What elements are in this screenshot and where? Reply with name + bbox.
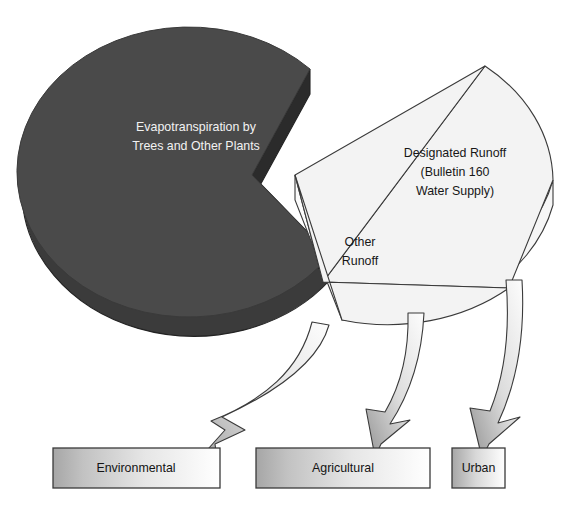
diagram-canvas: Evapotranspiration by Trees and Other Pl… [0,0,573,517]
destination-box-agricultural[interactable]: Agricultural [256,448,430,488]
destination-box-environmental-label: Environmental [96,461,175,475]
pie-slice-designated-runoff-label-line2: (Bulletin 160 [421,165,490,179]
destination-box-urban[interactable]: Urban [452,448,505,488]
destination-box-urban-label: Urban [462,461,496,475]
pie-slice-designated-runoff-label-line1: Designated Runoff [404,146,507,160]
pie-slice-evapotranspiration-label-line2: Trees and Other Plants [132,139,260,153]
pie-slice-other-runoff-label-line2: Runoff [342,254,379,268]
pie-slice-evapotranspiration-label-line1: Evapotranspiration by [136,120,257,134]
pie-slice-evapotranspiration[interactable]: Evapotranspiration by Trees and Other Pl… [17,27,330,336]
destination-box-agricultural-label: Agricultural [312,461,374,475]
arrow-to-urban [470,280,523,458]
water-budget-pie-diagram: Evapotranspiration by Trees and Other Pl… [0,0,573,517]
arrow-to-agricultural [366,313,424,457]
pie-slice-designated-runoff-label-line3: Water Supply) [416,184,494,198]
destination-box-environmental[interactable]: Environmental [53,448,220,488]
pie-slice-other-runoff-label-line1: Other [345,235,376,249]
